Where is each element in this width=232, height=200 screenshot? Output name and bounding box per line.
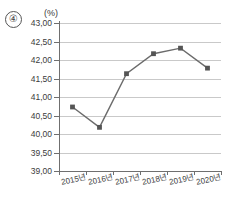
chart-figure: ④ (%) 43,0042,5042,0041,5041,0040,5040,0… — [0, 0, 232, 200]
data-point-marker — [124, 71, 129, 76]
data-point-marker — [97, 125, 102, 130]
data-point-marker — [151, 51, 156, 56]
data-point-marker — [205, 66, 210, 71]
series-line-path — [73, 48, 208, 127]
data-series-line — [0, 0, 232, 200]
data-point-marker — [178, 46, 183, 51]
data-point-marker — [70, 105, 75, 110]
